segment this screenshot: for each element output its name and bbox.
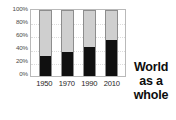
y-axis: 100% 80% 60% 40% 20% 0% <box>0 0 28 100</box>
bar-1950-lower-segment <box>40 56 51 76</box>
plot-area <box>30 9 126 77</box>
bar-2010 <box>105 10 118 76</box>
stacked-bar-chart: 100% 80% 60% 40% 20% 0% <box>0 0 134 100</box>
x-axis-tick-1990: 1990 <box>79 79 100 91</box>
y-axis-tick-60: 60% <box>2 32 28 38</box>
caption-line-2: as a <box>126 74 176 88</box>
y-axis-tick-40: 40% <box>2 45 28 51</box>
caption-line-1: World <box>126 60 176 74</box>
bar-1970 <box>61 10 74 76</box>
chart-caption: World as a whole <box>126 60 176 102</box>
bar-1990-upper-segment <box>84 10 95 47</box>
x-axis-tick-2010: 2010 <box>101 79 122 91</box>
x-axis: 1950 1970 1990 2010 <box>30 79 126 91</box>
y-axis-tick-80: 80% <box>2 19 28 25</box>
chart-screenshot: 100% 80% 60% 40% 20% 0% <box>0 0 176 120</box>
x-axis-tick-1970: 1970 <box>56 79 77 91</box>
bar-1970-upper-segment <box>62 10 73 52</box>
y-axis-tick-100: 100% <box>2 6 28 12</box>
bar-1950-upper-segment <box>40 10 51 56</box>
x-axis-tick-1950: 1950 <box>34 79 55 91</box>
bar-group <box>31 10 125 76</box>
bar-2010-lower-segment <box>106 40 117 76</box>
bar-1970-lower-segment <box>62 52 73 76</box>
bar-1950 <box>39 10 52 76</box>
y-axis-tick-0: 0% <box>2 71 28 77</box>
bar-1990-lower-segment <box>84 47 95 76</box>
y-axis-tick-20: 20% <box>2 58 28 64</box>
bar-1990 <box>83 10 96 76</box>
bar-2010-upper-segment <box>106 10 117 40</box>
caption-line-3: whole <box>126 88 176 102</box>
